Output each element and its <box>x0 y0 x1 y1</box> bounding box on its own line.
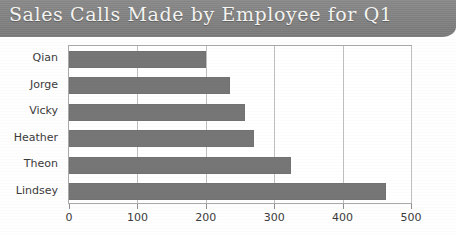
bar-vicky <box>69 104 245 121</box>
chart-title: Sales Calls Made by Employee for Q1 <box>9 3 393 25</box>
bar-jorge <box>69 77 230 94</box>
bar-theon <box>69 157 291 174</box>
plot-area <box>68 45 412 204</box>
category-label-jorge: Jorge <box>0 78 63 92</box>
gridline-300 <box>274 46 275 203</box>
tick-label-0: 0 <box>66 211 73 224</box>
tick-mark-400 <box>343 204 344 209</box>
category-axis: QianJorgeVickyHeatherTheonLindsey <box>0 45 63 204</box>
category-label-heather: Heather <box>0 131 63 145</box>
bar-row <box>69 130 254 147</box>
tick-mark-0 <box>69 204 70 209</box>
tick-mark-500 <box>411 204 412 209</box>
tick-label-200: 200 <box>195 211 216 224</box>
bar-qian <box>69 51 206 68</box>
tick-mark-200 <box>206 204 207 209</box>
gridline-200 <box>206 46 207 203</box>
bar-row <box>69 77 230 94</box>
bar-row <box>69 104 245 121</box>
gridline-100 <box>137 46 138 203</box>
category-label-vicky: Vicky <box>0 104 63 118</box>
tick-mark-300 <box>274 204 275 209</box>
tick-label-300: 300 <box>264 211 285 224</box>
tick-label-500: 500 <box>401 211 422 224</box>
category-label-lindsey: Lindsey <box>0 184 63 198</box>
bar-heather <box>69 130 254 147</box>
bar-chart-figure: Sales Calls Made by Employee for Q1 Qian… <box>0 0 456 235</box>
tick-label-100: 100 <box>127 211 148 224</box>
tick-label-400: 400 <box>332 211 353 224</box>
value-axis: 0100200300400500 <box>68 204 412 230</box>
category-label-theon: Theon <box>0 157 63 171</box>
gridline-400 <box>343 46 344 203</box>
bar-row <box>69 51 206 68</box>
tick-mark-100 <box>137 204 138 209</box>
bar-row <box>69 157 291 174</box>
bar-row <box>69 183 386 200</box>
category-label-qian: Qian <box>0 51 63 65</box>
title-banner: Sales Calls Made by Employee for Q1 <box>0 0 456 37</box>
gridline-500 <box>411 46 412 203</box>
bar-lindsey <box>69 183 386 200</box>
